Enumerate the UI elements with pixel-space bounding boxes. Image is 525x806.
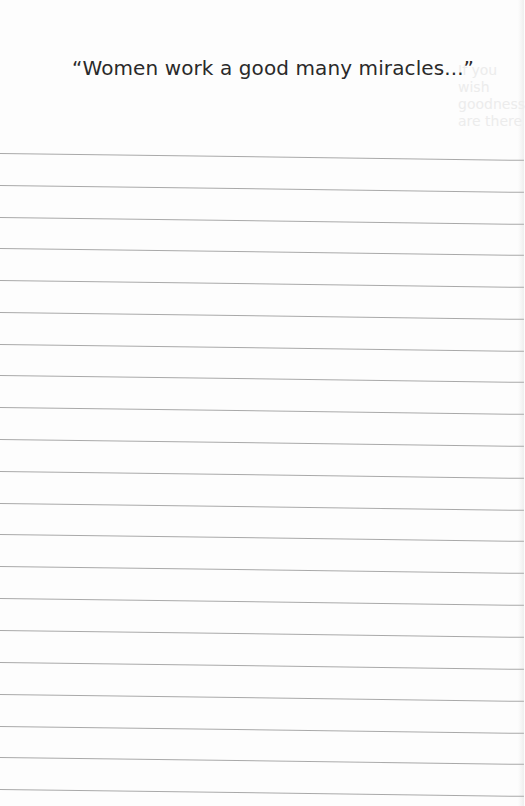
ruled-line [0, 662, 524, 670]
ruled-line [0, 471, 524, 479]
ruled-line [0, 757, 524, 765]
ruled-line [0, 280, 524, 288]
ruled-line [0, 217, 524, 225]
ruled-line [0, 153, 524, 161]
ruled-line [0, 312, 524, 320]
ruled-line [0, 407, 524, 415]
ruled-line [0, 630, 524, 638]
ruled-line [0, 344, 524, 352]
ruled-line [0, 248, 524, 256]
ruled-line [0, 503, 524, 511]
ruled-line [0, 375, 524, 383]
ruled-line [0, 694, 524, 702]
ruled-line [0, 598, 524, 606]
ruled-line [0, 789, 524, 797]
ruled-line [0, 726, 524, 734]
ruled-line [0, 534, 524, 542]
ruled-line [0, 439, 524, 447]
ruled-line [0, 185, 524, 193]
ruled-line [0, 566, 524, 574]
